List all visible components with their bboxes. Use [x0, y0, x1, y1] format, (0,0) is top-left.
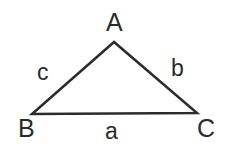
side-label-b: b: [171, 57, 184, 80]
side-label-a: a: [105, 120, 118, 143]
vertex-label-a: A: [106, 10, 123, 35]
side-label-c: c: [37, 61, 49, 84]
vertex-label-b: B: [18, 116, 35, 141]
vertex-label-c: C: [197, 116, 215, 141]
triangle-diagram: A B C a b c: [0, 0, 234, 157]
